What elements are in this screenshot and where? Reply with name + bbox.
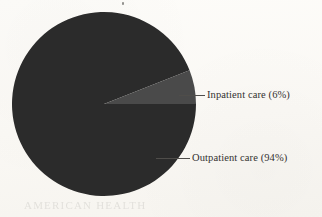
- pie-chart-graphic: [0, 0, 322, 217]
- slice-label-outpatient: Outpatient care (94%): [192, 152, 287, 164]
- slice-label-inpatient: Inpatient care (6%): [207, 89, 290, 101]
- pie-chart-figure: Inpatient care (6%) Outpatient care (94%…: [0, 0, 322, 217]
